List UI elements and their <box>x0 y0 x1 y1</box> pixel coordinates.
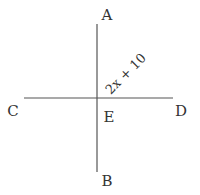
point-label-e: E <box>104 108 115 126</box>
point-label-c: C <box>7 102 18 120</box>
diagram-canvas: A B C D E 2x + 10 <box>0 0 200 195</box>
point-label-d: D <box>175 102 187 120</box>
point-label-a: A <box>101 6 113 24</box>
angle-expression: 2x + 10 <box>102 50 149 97</box>
point-label-b: B <box>101 172 112 190</box>
